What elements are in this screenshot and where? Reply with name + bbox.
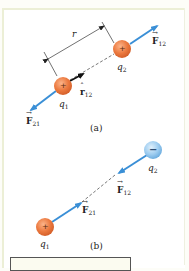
q1-b-sign: + [42,223,49,231]
panel-a [31,22,157,110]
q2-label-a: q2 [117,63,127,73]
q1-label-b: q1 [40,240,50,250]
force-21-label-a: F21 [26,117,40,127]
force-12-arrow-b [119,155,147,173]
force-12-label-b: F12 [117,186,131,196]
unit-vector-arrow [70,74,83,81]
q2-label-b: q2 [148,164,158,174]
distance-label: r [72,30,76,39]
extension-line-2 [102,22,114,43]
force-21-arrow-a [31,91,56,110]
q2-b-sign: − [149,145,157,155]
force-21-label-b: F21 [82,206,96,216]
caption-b: (b) [90,242,103,251]
force-21-arrow-b [52,203,81,222]
q1-label-a: q1 [59,100,69,110]
q1-a-sign: + [60,82,67,90]
caption-box [10,257,131,271]
panel-b [36,141,162,236]
dashed-line-a [70,54,114,80]
unit-vector-label: r12 [80,88,92,98]
q2-a-sign: + [119,45,126,53]
caption-a: (a) [90,124,102,133]
extension-line-1 [44,52,57,76]
force-12-label-a: F12 [152,37,166,47]
